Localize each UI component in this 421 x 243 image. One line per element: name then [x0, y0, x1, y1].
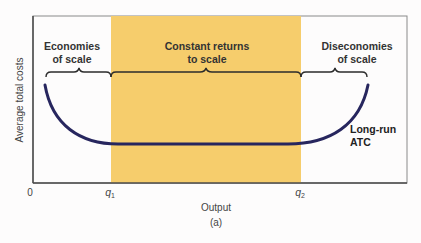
q2-subscript: 2: [301, 192, 305, 199]
economies-label-line2: of scale: [52, 53, 91, 65]
x-tick-q1: q1: [105, 186, 115, 199]
q1-subscript: 1: [111, 192, 115, 199]
y-axis-label: Average total costs: [14, 58, 25, 143]
curve-label-line1: Long-run: [350, 123, 396, 135]
x-axis-label: Output: [201, 202, 231, 213]
economies-of-scale-chart: Economies of scale Constant returns to s…: [0, 0, 421, 243]
figure-caption: (a): [210, 217, 222, 228]
x-tick-origin: 0: [27, 187, 33, 198]
constant-returns-label-line2: to scale: [187, 53, 226, 65]
constant-returns-label-line1: Constant returns: [165, 40, 250, 52]
economies-label-line1: Economies: [44, 40, 100, 52]
diseconomies-label-line2: of scale: [337, 53, 376, 65]
curve-label-line2: ATC: [350, 136, 371, 148]
diseconomies-label-line1: Diseconomies: [321, 40, 392, 52]
x-tick-q2: q2: [295, 186, 305, 199]
